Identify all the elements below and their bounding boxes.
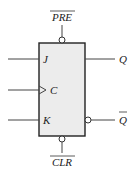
- k-input: K: [8, 114, 51, 126]
- j-input: J: [8, 53, 49, 65]
- pre-label: PRE: [51, 11, 72, 23]
- q-bar-inversion-bubble-icon: [85, 117, 91, 123]
- clr-label: CLR: [52, 156, 72, 168]
- clear-input: CLR: [50, 136, 75, 168]
- clr-inversion-bubble-icon: [59, 136, 65, 142]
- jk-flip-flop-diagram: PRE CLR J C K Q Q: [0, 0, 140, 180]
- pre-inversion-bubble-icon: [59, 37, 65, 43]
- q-label: Q: [119, 53, 127, 65]
- k-label: K: [42, 114, 51, 126]
- q-bar-label: Q: [119, 114, 127, 126]
- q-output: Q: [85, 53, 127, 65]
- q-bar-output: Q: [85, 112, 127, 126]
- preset-input: PRE: [50, 11, 75, 43]
- c-label: C: [50, 84, 58, 96]
- clock-input: C: [8, 84, 58, 96]
